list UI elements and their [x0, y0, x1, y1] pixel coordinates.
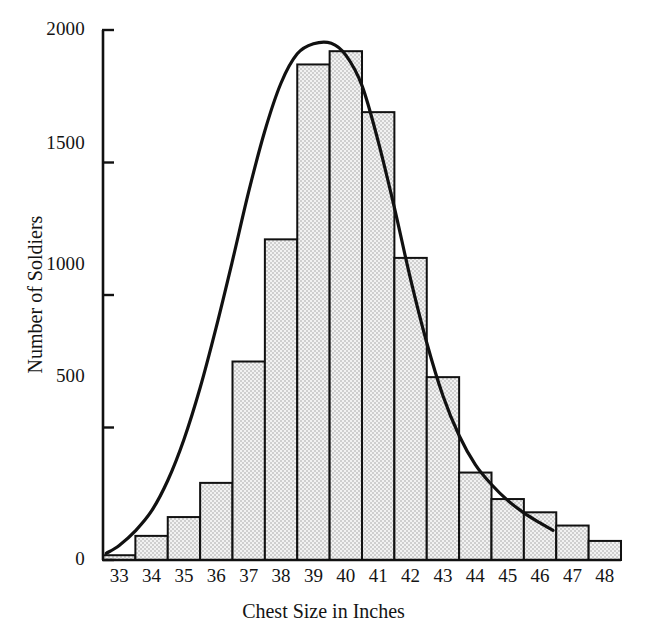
x-tick-label: 48 — [585, 565, 625, 587]
histogram-bar — [427, 377, 459, 560]
x-axis-title: Chest Size in Inches — [0, 600, 647, 623]
histogram-bar — [168, 517, 200, 560]
y-tick-label-1500: 1500 — [18, 132, 85, 154]
bars-group — [103, 51, 621, 560]
y-tick-label-0: 0 — [40, 548, 85, 570]
plot-area — [0, 0, 647, 641]
y-tick-label-2000: 2000 — [18, 18, 85, 40]
histogram-bar — [524, 512, 556, 560]
histogram-bar — [556, 526, 588, 560]
histogram-bar — [362, 112, 394, 560]
histogram-bar — [330, 51, 362, 560]
histogram-bar — [394, 258, 426, 560]
histogram-chart: 0 500 1000 1500 2000 3334353637383940414… — [0, 0, 647, 641]
histogram-bar — [200, 483, 232, 560]
histogram-bar — [297, 64, 329, 560]
histogram-bar — [589, 541, 621, 560]
histogram-bar — [233, 362, 265, 560]
histogram-bar — [459, 473, 491, 560]
histogram-bar — [135, 536, 167, 560]
histogram-bar — [265, 239, 297, 560]
y-axis-title: Number of Soldiers — [24, 165, 47, 425]
